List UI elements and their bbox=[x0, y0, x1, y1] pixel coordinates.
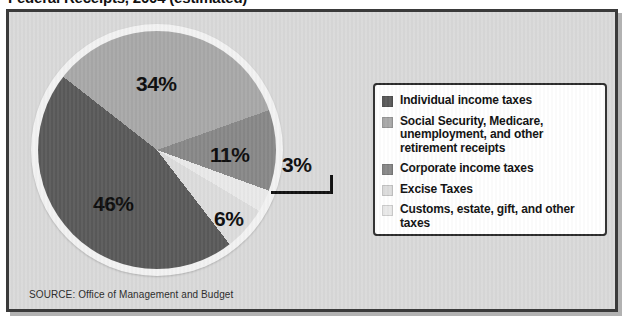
legend-item-individual-income-taxes: Individual income taxes bbox=[382, 94, 597, 108]
pie-chart: 34% 11% 46% 6% bbox=[31, 24, 283, 276]
slice-label-customs: 3% bbox=[282, 153, 311, 177]
legend-item-label: Corporate income taxes bbox=[400, 162, 533, 176]
legend-item-label: Social Security, Medicare, unemployment,… bbox=[400, 115, 597, 156]
slice-label-social-security: 34% bbox=[136, 72, 177, 96]
legend-item-excise-taxes: Excise Taxes bbox=[382, 183, 597, 197]
legend-swatch-icon bbox=[382, 117, 393, 128]
source-note: SOURCE: Office of Management and Budget bbox=[29, 289, 233, 300]
slice-label-individual: 46% bbox=[93, 192, 134, 216]
legend-swatch-icon bbox=[382, 205, 393, 216]
chart-panel: 34% 11% 46% 6% 3% Individual income taxe… bbox=[6, 9, 618, 312]
legend-swatch-icon bbox=[382, 185, 393, 196]
chart-title: Federal Receipts, 2004 (estimated) bbox=[8, 0, 428, 9]
legend-item-label: Excise Taxes bbox=[400, 183, 473, 197]
callout-leader-horizontal bbox=[271, 191, 333, 194]
legend-item-social-security: Social Security, Medicare, unemployment,… bbox=[382, 115, 597, 156]
legend-item-corporate-income-taxes: Corporate income taxes bbox=[382, 162, 597, 176]
legend-item-customs-estate-gift: Customs, estate, gift, and other taxes bbox=[382, 203, 597, 230]
legend: Individual income taxes Social Security,… bbox=[373, 83, 607, 236]
slice-label-excise: 6% bbox=[214, 207, 243, 231]
slice-label-corporate: 11% bbox=[210, 143, 249, 167]
legend-swatch-icon bbox=[382, 96, 393, 107]
callout-leader-vertical bbox=[330, 175, 333, 194]
legend-swatch-icon bbox=[382, 164, 393, 175]
legend-item-label: Individual income taxes bbox=[400, 94, 532, 108]
legend-item-label: Customs, estate, gift, and other taxes bbox=[400, 203, 597, 230]
